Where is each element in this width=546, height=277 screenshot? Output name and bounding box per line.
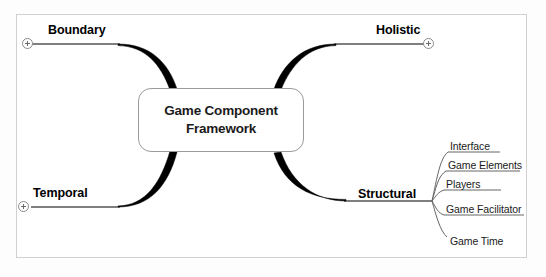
mindmap-canvas: Game Component Framework Boundary Holist… <box>0 0 546 277</box>
branch-curve-boundary <box>118 44 177 90</box>
sub-branch-label-game-time[interactable]: Game Time <box>450 236 503 247</box>
sub-branch-curve-game-time <box>432 201 447 237</box>
sub-branch-label-interface[interactable]: Interface <box>450 141 490 152</box>
branch-label-boundary[interactable]: Boundary <box>48 24 106 37</box>
sub-branch-label-players[interactable]: Players <box>446 179 480 190</box>
central-node[interactable]: Game Component Framework <box>138 88 304 152</box>
expand-plus-icon-temporal[interactable] <box>18 201 29 212</box>
expand-plus-icon-boundary[interactable] <box>22 38 33 49</box>
central-node-line-1: Game Component <box>164 103 277 118</box>
branch-curve-holistic <box>274 44 336 90</box>
sub-branch-curve-players <box>432 190 501 201</box>
branch-label-holistic[interactable]: Holistic <box>376 24 420 37</box>
central-node-line-2: Framework <box>186 121 256 136</box>
branch-curve-temporal <box>118 151 177 207</box>
expand-plus-icon-holistic[interactable] <box>423 38 434 49</box>
branch-curve-structural <box>274 152 346 201</box>
sub-branch-label-game-facilitator[interactable]: Game Facilitator <box>446 204 521 215</box>
central-node-label: Game Component Framework <box>164 102 277 138</box>
sub-branch-label-game-elements[interactable]: Game Elements <box>448 160 522 171</box>
branch-label-temporal[interactable]: Temporal <box>33 187 88 200</box>
branch-label-structural[interactable]: Structural <box>358 188 416 201</box>
